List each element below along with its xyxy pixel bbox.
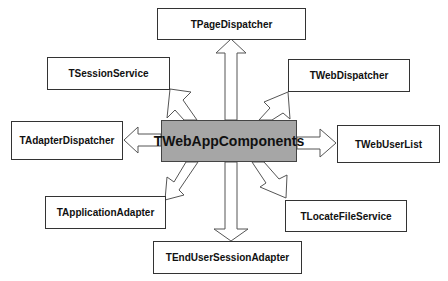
center-label: TWebAppComponents [154, 133, 305, 149]
arrow-to-session-service [167, 89, 197, 120]
node-label: TApplicationAdapter [57, 207, 155, 218]
arrow-to-end-user-session-adapter [214, 162, 248, 241]
node-label: TSessionService [68, 68, 148, 79]
node-end-user-session-adapter: TEndUserSessionAdapter [153, 241, 302, 274]
arrow-to-page-dispatcher [216, 39, 246, 120]
arrow-to-application-adapter [165, 162, 198, 200]
node-session-service: TSessionService [47, 57, 170, 90]
node-application-adapter: TApplicationAdapter [45, 196, 166, 229]
node-label: TEndUserSessionAdapter [166, 252, 289, 263]
arrow-to-locate-file-service [252, 162, 287, 198]
node-web-app-components: TWebAppComponents [161, 120, 297, 162]
node-page-dispatcher: TPageDispatcher [157, 8, 306, 40]
node-adapter-dispatcher: TAdapterDispatcher [11, 121, 123, 160]
node-web-user-list: TWebUserList [337, 125, 440, 163]
node-locate-file-service: TLocateFileService [285, 200, 407, 232]
node-label: TLocateFileService [300, 211, 391, 222]
arrow-to-web-dispatcher [259, 92, 290, 120]
node-label: TWebDispatcher [310, 70, 389, 81]
node-label: TPageDispatcher [191, 19, 273, 30]
node-label: TWebUserList [355, 139, 422, 150]
node-web-dispatcher: TWebDispatcher [288, 59, 410, 92]
node-label: TAdapterDispatcher [20, 135, 115, 146]
